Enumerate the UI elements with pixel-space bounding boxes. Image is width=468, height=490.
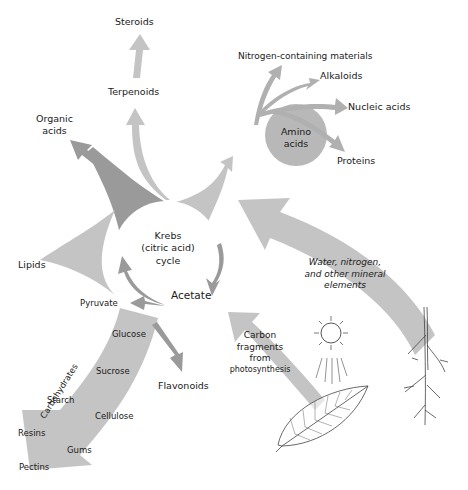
label-krebs-line2: (citric acid) <box>133 242 203 254</box>
label-amino-line2: acids <box>270 138 322 150</box>
label-nitrogen-containing-materials: Nitrogen-containing materials <box>238 51 372 63</box>
label-acetate: Acetate <box>171 289 211 303</box>
label-nucleic-acids: Nucleic acids <box>348 101 410 113</box>
label-resins: Resins <box>18 428 45 439</box>
label-sucrose: Sucrose <box>96 366 130 377</box>
label-pyruvate: Pyruvate <box>80 298 118 309</box>
plant-metabolism-diagram <box>0 0 468 490</box>
label-carbon-input: Carbon fragments from photosynthesis <box>225 330 295 375</box>
label-krebs-line1: Krebs <box>133 230 203 242</box>
label-carbon-line3: from <box>225 353 295 365</box>
arrow-to-flavonoids <box>152 322 183 372</box>
label-organic-acids-line2: acids <box>36 125 73 137</box>
label-proteins: Proteins <box>337 155 375 167</box>
label-minerals-line3: elements <box>290 280 400 292</box>
label-minerals-line1: Water, nitrogen, <box>290 257 400 269</box>
label-glucose: Glucose <box>112 329 146 340</box>
label-carbon-line4: photosynthesis <box>225 365 295 375</box>
label-organic-acids: Organic acids <box>36 113 73 138</box>
label-alkaloids: Alkaloids <box>320 70 362 82</box>
label-cellulose: Cellulose <box>95 411 134 422</box>
leaf-icon <box>276 386 368 452</box>
label-amino-acids: Amino acids <box>270 126 322 151</box>
label-steroids: Steroids <box>115 16 154 28</box>
label-lipids: Lipids <box>18 259 46 271</box>
arrow-krebs-to-lipids <box>40 210 115 295</box>
arrow-terpenoids-to-steroids <box>129 34 150 78</box>
sun-icon <box>314 316 348 384</box>
label-krebs-line3: cycle <box>133 255 203 267</box>
label-minerals-line2: and other mineral <box>290 269 400 281</box>
label-amino-line1: Amino <box>270 126 322 138</box>
label-organic-acids-line1: Organic <box>36 113 73 125</box>
label-carbon-line2: fragments <box>225 342 295 354</box>
label-carbon-line1: Carbon <box>225 330 295 342</box>
label-gums: Gums <box>67 445 92 456</box>
label-krebs-cycle: Krebs (citric acid) cycle <box>133 230 203 267</box>
label-flavonoids: Flavonoids <box>158 380 209 392</box>
label-terpenoids: Terpenoids <box>108 86 159 98</box>
label-minerals-input: Water, nitrogen, and other mineral eleme… <box>290 257 400 292</box>
label-pectins: Pectins <box>19 462 49 473</box>
